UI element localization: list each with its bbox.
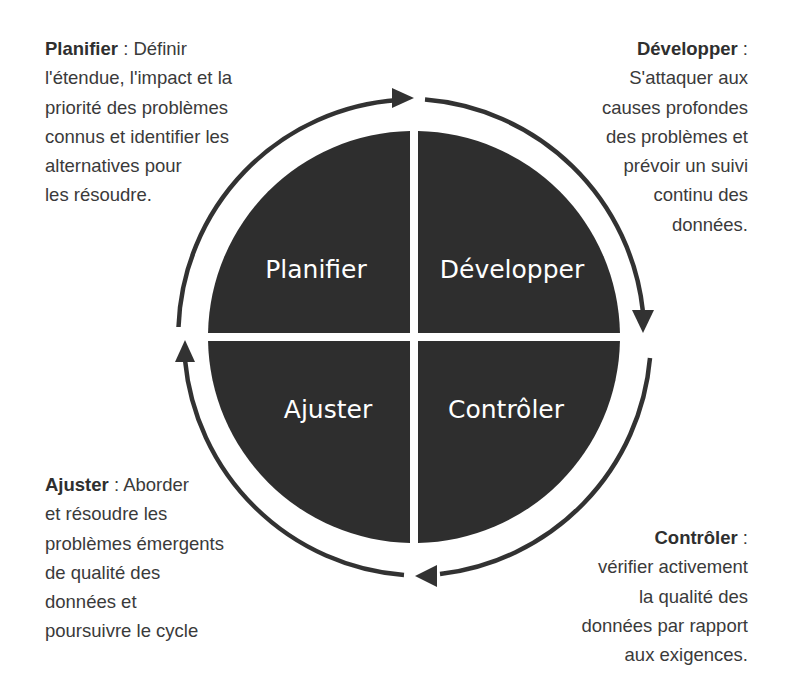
separator: : (738, 38, 748, 59)
quadrant-planifier (208, 131, 410, 333)
term-ajuster: Ajuster (45, 474, 109, 495)
desc-line: données. (602, 210, 748, 239)
desc-line: des problèmes et (602, 122, 748, 151)
desc-line: prévoir un suivi (602, 151, 748, 180)
quadrant-controler (418, 341, 620, 543)
desc-line: vérifier activement (581, 552, 748, 581)
desc-line: causes profondes (602, 93, 748, 122)
desc-line: problèmes émergents (45, 529, 224, 558)
description-planifier: Planifier : Définir l'étendue, l'impact … (45, 34, 232, 210)
separator: : (738, 527, 748, 548)
arrowhead-down-icon (632, 310, 654, 333)
description-ajuster: Ajuster : Aborder et résoudre les problè… (45, 470, 224, 646)
desc-line: les résoudre. (45, 180, 232, 209)
quadrant-ajuster (208, 341, 410, 543)
quadrant-label-ajuster: Ajuster (284, 395, 373, 424)
desc-line: Aborder (123, 474, 189, 495)
desc-line: Définir (133, 38, 186, 59)
desc-line: poursuivre le cycle (45, 616, 224, 645)
desc-line: aux exigences. (581, 640, 748, 669)
desc-line: l'étendue, l'impact et la (45, 63, 232, 92)
arrowhead-left-icon (415, 565, 437, 587)
description-controler: Contrôler : vérifier activement la quali… (581, 523, 748, 669)
quadrant-label-controler: Contrôler (448, 395, 565, 424)
quadrant-group (208, 131, 620, 543)
description-developper: Développer : S'attaquer aux causes profo… (602, 34, 748, 239)
desc-line: connus et identifier les (45, 122, 232, 151)
cycle-arrows (179, 100, 651, 576)
term-developper: Développer (637, 38, 738, 59)
desc-line: alternatives pour (45, 151, 232, 180)
desc-line: S'attaquer aux (602, 63, 748, 92)
desc-line: données par rapport (581, 611, 748, 640)
quadrant-developper (418, 131, 620, 333)
term-controler: Contrôler (654, 527, 737, 548)
desc-line: données et (45, 587, 224, 616)
desc-line: priorité des problèmes (45, 93, 232, 122)
arrowhead-right-icon (392, 88, 414, 108)
term-planifier: Planifier (45, 38, 118, 59)
quadrant-label-planifier: Planifier (265, 255, 367, 284)
desc-line: continu des (602, 180, 748, 209)
arrowhead-up-icon (175, 340, 195, 362)
desc-line: et résoudre les (45, 499, 224, 528)
arrowheads (175, 88, 654, 587)
desc-line: de qualité des (45, 558, 224, 587)
separator: : (109, 474, 123, 495)
separator: : (118, 38, 133, 59)
quadrant-label-developper: Développer (440, 255, 585, 284)
desc-line: la qualité des (581, 582, 748, 611)
